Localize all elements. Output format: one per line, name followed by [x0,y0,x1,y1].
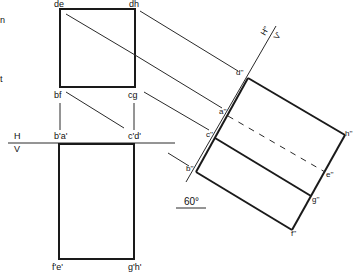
label-dh: dh [129,0,139,9]
label-b-a-prime: b'a' [54,131,68,141]
plan-diagonal [66,14,135,55]
aux-edge-dh [248,78,345,135]
label-h-double-prime: h'' [345,129,353,138]
hv-reference-line: H V [8,131,175,154]
aux-edge-cg [215,138,311,196]
elevation-rectangle [59,144,134,259]
label-g-double-prime: g'' [312,195,320,204]
aux-edge-db [196,78,248,172]
label-c-double-prime: c'' [206,130,214,139]
label-f-e-prime: f'e' [52,262,63,272]
angle-label: 60° [184,196,199,207]
projector-to-c [144,92,209,130]
label-bf: bf [54,90,62,100]
label-V-prime: V' [272,30,283,41]
label-V: V [14,144,20,154]
projection-diagram: n t de dh bf cg H V b'a' c'd' f'e' g'h' … [0,0,354,280]
label-cg: cg [128,90,138,100]
x1y1-line [186,26,276,182]
label-a-double-prime: a'' [219,107,227,116]
aux-edge-bf [196,172,292,230]
auxiliary-view: d'' a'' c'' b'' h'' e'' g'' f'' [186,68,353,238]
plan-view: de dh bf cg [54,0,139,100]
label-H: H [14,131,21,141]
edge-text-fragment-n: n [0,15,5,25]
label-c-d-prime: c'd' [128,131,141,141]
label-g-h-prime: g'h' [128,262,142,272]
elevation-view: b'a' c'd' f'e' g'h' [52,131,142,272]
label-d-double-prime: d'' [236,68,244,77]
label-e-double-prime: e'' [326,170,334,179]
edge-text-fragment-t: t [0,74,3,84]
angle-indicator: 60° [176,196,206,208]
projector-to-d [140,11,238,71]
label-b-double-prime: b'' [186,164,194,173]
projector-to-a [135,55,222,108]
label-de: de [54,0,64,9]
label-f-double-prime: f'' [291,229,297,238]
label-H-double-prime: H'' [259,24,271,37]
aux-edge-hf [292,135,345,230]
projector-bf-diagonal [66,92,124,128]
aux-hidden-edge-ae [228,116,325,172]
